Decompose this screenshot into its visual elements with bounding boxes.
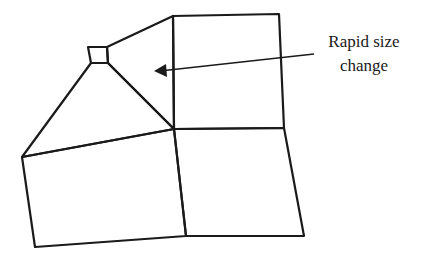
mesh-diagram: Rapid size change bbox=[0, 0, 434, 261]
small-square-element bbox=[88, 47, 108, 63]
annotation-line-2: change bbox=[312, 54, 416, 78]
annotation-label: Rapid size change bbox=[312, 30, 416, 78]
arrowhead-icon bbox=[154, 64, 167, 77]
top-right-quad-element bbox=[173, 14, 284, 129]
arrow-pointer bbox=[160, 54, 314, 71]
bottom-right-quad-element bbox=[174, 128, 304, 236]
annotation-line-1: Rapid size bbox=[312, 30, 416, 54]
bottom-left-quad-element bbox=[22, 129, 186, 247]
